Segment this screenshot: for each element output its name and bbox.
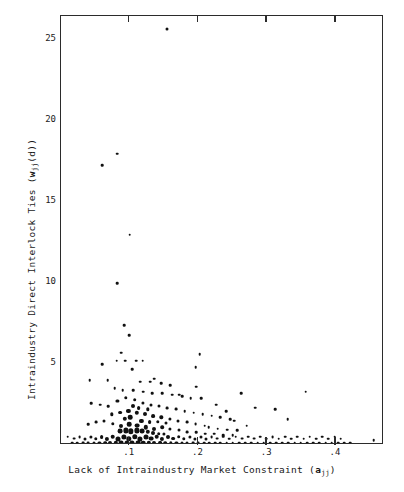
data-point <box>99 403 102 406</box>
data-point <box>95 421 98 424</box>
data-point <box>140 429 145 434</box>
data-point <box>190 397 193 400</box>
data-point <box>103 419 106 422</box>
data-point <box>240 392 243 395</box>
data-point <box>126 409 130 413</box>
data-point <box>110 413 113 416</box>
data-point <box>118 411 122 415</box>
data-point <box>269 442 272 443</box>
x-tick-label: .2 <box>182 447 212 457</box>
data-point <box>222 436 225 439</box>
data-point <box>176 419 179 422</box>
data-point <box>238 441 241 443</box>
data-point <box>253 437 256 440</box>
data-point <box>158 405 161 408</box>
y-axis-title-mid: (d) <box>26 145 37 163</box>
data-point <box>141 360 144 363</box>
data-point <box>213 432 216 435</box>
data-point <box>219 416 222 419</box>
data-point <box>195 385 198 388</box>
data-point <box>101 363 104 366</box>
y-tick-label: 20 <box>16 115 56 124</box>
data-point <box>174 408 177 411</box>
data-point <box>87 423 90 426</box>
data-point <box>169 427 172 430</box>
data-point <box>135 360 138 363</box>
data-point <box>186 431 189 434</box>
data-point <box>208 442 211 443</box>
data-point <box>195 431 198 434</box>
data-point <box>226 428 229 431</box>
data-point <box>128 334 131 337</box>
data-point <box>275 441 278 443</box>
data-point <box>73 437 76 440</box>
data-point <box>67 436 70 439</box>
data-point <box>177 435 181 439</box>
data-point <box>143 434 148 439</box>
data-point <box>132 389 135 392</box>
data-point <box>145 430 149 434</box>
data-point <box>318 442 321 443</box>
data-point <box>106 379 109 382</box>
data-point <box>250 441 253 443</box>
data-point <box>233 419 236 422</box>
data-point <box>111 422 114 425</box>
data-point <box>151 414 155 418</box>
data-point <box>234 436 237 439</box>
data-point <box>214 441 217 443</box>
data-point <box>271 435 274 438</box>
data-point <box>158 441 162 443</box>
data-point <box>337 441 340 443</box>
data-point <box>240 437 243 440</box>
y-axis-subscript: jj <box>31 163 39 171</box>
data-point <box>302 437 305 440</box>
data-point <box>116 400 119 403</box>
data-point <box>259 436 262 439</box>
data-points-layer <box>61 16 382 443</box>
data-point <box>321 436 324 439</box>
data-point <box>141 441 146 443</box>
data-point <box>181 395 184 398</box>
data-point <box>300 441 303 443</box>
data-point <box>199 435 202 438</box>
data-point <box>232 442 235 443</box>
data-point <box>160 425 164 429</box>
data-point <box>177 429 180 432</box>
data-point <box>134 428 139 433</box>
data-point <box>199 353 202 356</box>
data-point <box>120 351 123 354</box>
data-point <box>182 437 185 440</box>
data-point <box>192 441 195 443</box>
data-point <box>114 440 118 443</box>
x-tick-label: .4 <box>320 447 350 457</box>
data-point <box>98 441 101 443</box>
data-point <box>349 441 352 443</box>
data-point <box>165 27 168 30</box>
data-point <box>90 402 93 405</box>
data-point <box>194 423 197 426</box>
data-point <box>142 390 145 393</box>
x-tick-mark <box>334 437 336 445</box>
data-point <box>128 233 131 236</box>
data-point <box>131 404 135 408</box>
data-point <box>171 394 174 397</box>
data-point <box>139 381 142 384</box>
data-point <box>132 434 137 439</box>
data-point <box>290 437 293 440</box>
x-tick-mark-top <box>197 15 199 22</box>
x-axis-subscript: jj <box>321 469 329 477</box>
data-point <box>113 387 116 390</box>
data-point <box>160 382 163 385</box>
y-tick-label: 15 <box>16 196 56 205</box>
data-point <box>188 435 191 438</box>
data-point <box>121 434 126 439</box>
data-point <box>286 418 289 421</box>
x-tick-mark-top <box>265 15 267 22</box>
data-point <box>256 442 259 443</box>
data-point <box>136 440 141 443</box>
data-point <box>324 441 327 443</box>
plot-area <box>60 15 383 444</box>
data-point <box>205 437 208 440</box>
data-point <box>228 437 231 440</box>
data-point <box>92 441 95 443</box>
